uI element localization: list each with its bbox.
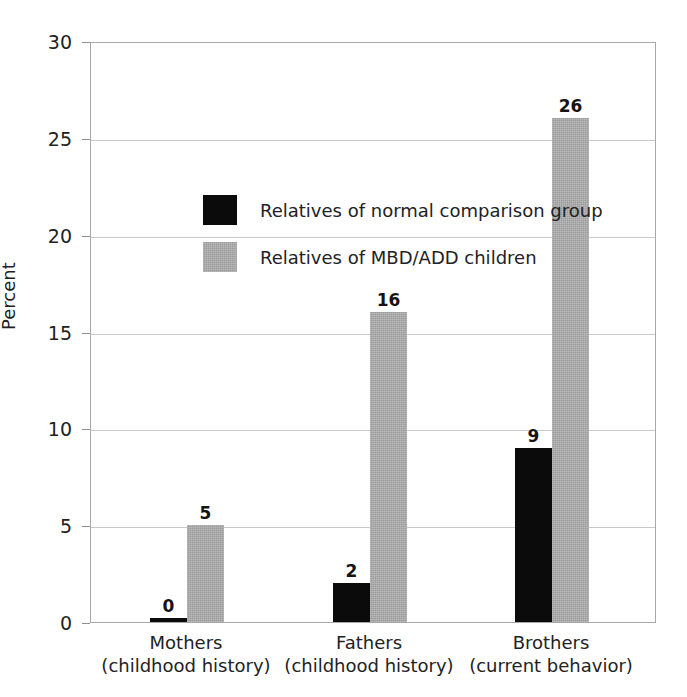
x-axis-category-name: Mothers: [101, 631, 270, 654]
legend-item-mbd-add: Relatives of MBD/ADD children: [203, 242, 603, 272]
y-axis-labels: 051015202530: [0, 0, 82, 697]
y-axis-title: Percent: [0, 262, 19, 330]
legend-swatch-gray-icon: [203, 242, 237, 272]
y-axis-tick-mark: [82, 429, 90, 430]
y-axis-tick-mark: [82, 139, 90, 140]
y-axis-tick-mark: [82, 526, 90, 527]
y-axis-tick-label: 0: [12, 614, 72, 633]
bar: [150, 618, 187, 622]
x-axis-category-label: Fathers(childhood history): [284, 631, 453, 677]
legend-item-normal-comparison: Relatives of normal comparison group: [203, 195, 603, 225]
bar: [515, 448, 552, 622]
bar-value-label: 5: [200, 505, 212, 522]
plot-inner: 05216926: [91, 43, 655, 622]
y-axis-tick-label: 5: [12, 517, 72, 536]
bar-value-label: 26: [559, 98, 583, 115]
bar: [370, 312, 407, 622]
chart-legend: Relatives of normal comparison group Rel…: [203, 195, 603, 289]
y-axis-tick-label: 30: [12, 33, 72, 52]
x-axis-category-qualifier: (childhood history): [101, 654, 270, 677]
bar: [333, 583, 370, 622]
x-axis-category-name: Brothers: [469, 631, 633, 654]
y-axis-tick-mark: [82, 333, 90, 334]
bar-value-label: 2: [346, 563, 358, 580]
y-axis-tick-mark: [82, 623, 90, 624]
y-axis-tick-mark: [82, 236, 90, 237]
plot-area: 05216926 Relatives of normal comparison …: [90, 42, 656, 623]
y-axis-tick-label: 25: [12, 129, 72, 148]
x-axis-category-label: Brothers(current behavior): [469, 631, 633, 677]
x-axis-category-name: Fathers: [284, 631, 453, 654]
chart-figure: 051015202530 Percent 05216926 Relatives …: [0, 0, 687, 697]
x-axis-category-qualifier: (childhood history): [284, 654, 453, 677]
x-axis-category-label: Mothers(childhood history): [101, 631, 270, 677]
y-axis-tick-mark: [82, 42, 90, 43]
bar: [187, 525, 224, 622]
bar-value-label: 0: [163, 598, 175, 615]
bar-value-label: 9: [528, 428, 540, 445]
legend-label-normal-comparison: Relatives of normal comparison group: [260, 200, 603, 221]
legend-label-mbd-add: Relatives of MBD/ADD children: [260, 247, 537, 268]
y-axis-tick-label: 20: [12, 226, 72, 245]
x-axis-category-qualifier: (current behavior): [469, 654, 633, 677]
y-axis-tick-label: 15: [12, 323, 72, 342]
y-axis-tick-label: 10: [12, 420, 72, 439]
bar-value-label: 16: [377, 292, 401, 309]
legend-swatch-black-icon: [203, 195, 237, 225]
bar: [552, 118, 589, 622]
